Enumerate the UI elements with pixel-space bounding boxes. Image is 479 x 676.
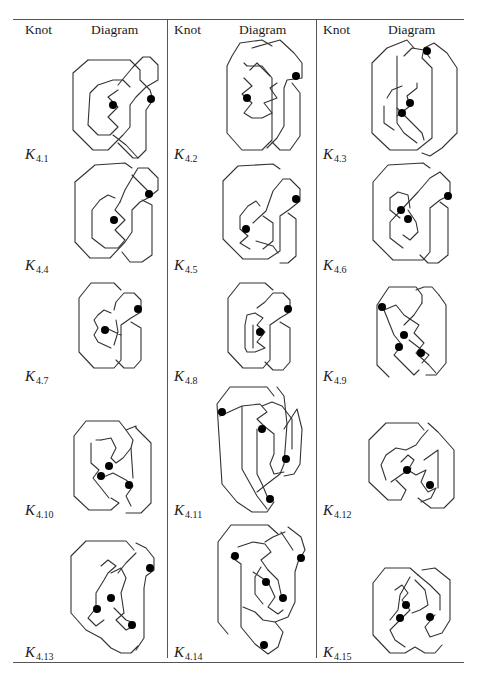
knot-label-k4-8: K4.8 [174,368,198,386]
knot-diagram-k4-3 [362,38,462,158]
knot-label-k4-14: K4.14 [174,644,203,662]
bottom-rule [13,662,464,663]
knot-label-k4-2: K4.2 [174,146,198,164]
knot-diagram-k4-14 [213,522,313,660]
header-knot-col3: Knot [323,22,350,38]
column-divider-1 [167,20,168,658]
header-diagram-col1: Diagram [91,22,138,38]
knot-diagram-k4-15 [370,565,455,657]
knot-diagram-k4-8 [225,280,305,373]
knot-diagram-k4-5 [218,161,313,266]
knot-diagram-k4-11 [212,384,312,516]
knot-label-k4-5: K4.5 [174,257,198,275]
knot-label-k4-1: K4.1 [25,146,49,164]
knot-label-k4-3: K4.3 [323,146,347,164]
header-knot-col2: Knot [174,22,201,38]
knot-label-k4-13: K4.13 [25,644,54,662]
knot-diagram-k4-1 [68,55,163,160]
knot-label-k4-4: K4.4 [25,257,49,275]
knot-label-k4-10: K4.10 [25,502,54,520]
header-diagram-col2: Diagram [239,22,286,38]
knot-diagram-k4-13 [66,538,161,656]
knot-diagram-k4-10 [71,418,161,518]
knot-diagram-k4-7 [76,280,156,372]
column-divider-2 [316,20,317,658]
knot-label-k4-9: K4.9 [323,368,347,386]
knot-label-k4-12: K4.12 [323,502,352,520]
knot-diagram-k4-9 [374,285,449,380]
header-knot-col1: Knot [25,22,52,38]
header-diagram-col3: Diagram [388,22,435,38]
knot-label-k4-6: K4.6 [323,257,347,275]
knot-diagram-k4-4 [70,160,162,265]
top-rule [13,19,464,20]
knot-diagram-k4-6 [368,160,463,266]
knot-label-k4-7: K4.7 [25,368,49,386]
knot-diagram-k4-12 [366,420,461,512]
knot-label-k4-11: K4.11 [174,502,202,520]
knot-diagram k4-2 [222,38,314,156]
knot-label-k4-15: K4.15 [323,644,352,662]
